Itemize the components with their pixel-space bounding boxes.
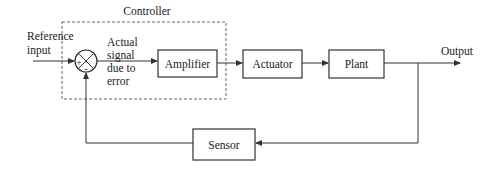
- reference-input-label-line2: input: [27, 44, 51, 57]
- sensor-label: Sensor: [208, 139, 239, 151]
- amplifier-block: Amplifier: [158, 50, 217, 77]
- plant-label: Plant: [345, 58, 369, 70]
- plus-sign: +: [76, 57, 81, 67]
- controller-label: Controller: [123, 5, 170, 17]
- reference-input-label-line1: Reference: [27, 30, 74, 42]
- summing-junction: + -: [75, 50, 97, 74]
- error-label-line4: error: [107, 75, 130, 87]
- actuator-label: Actuator: [252, 58, 292, 70]
- output-label: Output: [441, 45, 474, 58]
- amplifier-label: Amplifier: [165, 58, 211, 71]
- sensor-block: Sensor: [193, 129, 255, 160]
- actuator-block: Actuator: [243, 50, 302, 78]
- error-label-line1: Actual: [107, 36, 138, 48]
- error-label-line3: due to: [107, 62, 136, 74]
- control-system-diagram: Controller Reference input + - Actual si…: [0, 0, 494, 172]
- minus-sign: -: [84, 63, 87, 74]
- plant-block: Plant: [329, 50, 384, 78]
- sensor-to-junction-arrow: [86, 73, 193, 143]
- error-label-line2: signal: [107, 49, 134, 62]
